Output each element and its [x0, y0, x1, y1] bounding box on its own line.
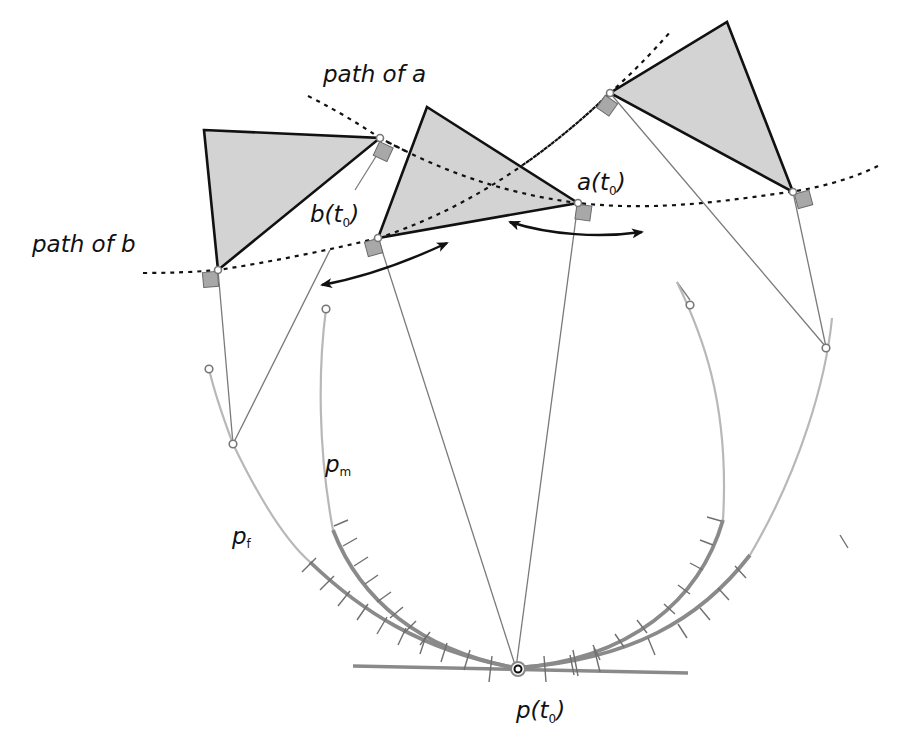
curve-right-outer	[516, 318, 832, 668]
curve-nodes	[205, 301, 830, 448]
square-marker-a-left	[373, 142, 393, 162]
label-path-of-a: path of a	[322, 61, 426, 87]
triangle-right	[610, 22, 793, 192]
label-p-t0: p(t0)	[515, 697, 565, 726]
double-arrow-a	[510, 222, 642, 235]
label-a-t0: a(t0)	[577, 169, 626, 198]
double-arrow-a-start	[510, 222, 513, 223]
triangle-left	[204, 130, 380, 270]
diagram-canvas: path of a path of b a(t0) b(t0) p(t0) pm…	[0, 0, 906, 739]
point-p-t0	[511, 662, 525, 676]
double-arrow-b	[322, 243, 447, 285]
label-path-of-b: path of b	[31, 231, 136, 257]
tick-marks	[302, 517, 848, 682]
label-b-t0: b(t0)	[310, 201, 359, 230]
label-p-f: pf	[231, 523, 252, 551]
curve-p-f	[209, 369, 516, 668]
label-p-m: pm	[324, 451, 351, 479]
triangle-middle	[378, 107, 578, 238]
